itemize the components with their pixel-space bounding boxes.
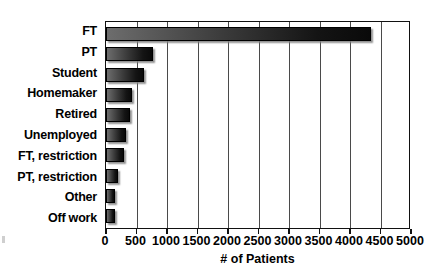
bar: [106, 88, 132, 102]
bar-row: [106, 85, 409, 105]
x-axis-tick-label: 2000: [213, 234, 241, 248]
chart-figure: FTPTStudentHomemakerRetiredUnemployedFT,…: [0, 0, 427, 272]
bar-row: [106, 186, 409, 206]
y-axis-category-labels: FTPTStudentHomemakerRetiredUnemployedFT,…: [0, 21, 101, 229]
x-axis-tick-labels: 0500100015002000250030003500400045005000: [105, 234, 410, 250]
x-axis-tick-label: 3000: [274, 234, 302, 248]
bar-row: [106, 105, 409, 125]
x-axis-tick-label: 1500: [183, 234, 211, 248]
y-axis-label: PT: [0, 42, 101, 63]
y-axis-label: PT, restriction: [0, 167, 101, 188]
bar-series: [106, 22, 409, 228]
bar-row: [106, 145, 409, 165]
y-axis-label: Retired: [0, 104, 101, 125]
bar-row: [106, 64, 409, 84]
bar: [106, 68, 144, 82]
x-axis-tick-label: 500: [125, 234, 146, 248]
bar: [106, 148, 124, 162]
y-axis-label: Homemaker: [0, 83, 101, 104]
x-axis-tick-label: 1000: [152, 234, 180, 248]
y-axis-label: Unemployed: [0, 125, 101, 146]
x-axis-tick-label: 4000: [335, 234, 363, 248]
bar: [106, 108, 130, 122]
y-axis-label: FT: [0, 21, 101, 42]
bar-row: [106, 165, 409, 185]
bar-row: [106, 125, 409, 145]
bar: [106, 209, 115, 223]
bar: [106, 128, 126, 142]
y-axis-label: Off work: [0, 208, 101, 229]
y-axis-label: FT, restriction: [0, 146, 101, 167]
bar: [106, 169, 118, 183]
x-axis-tick-label: 5000: [396, 234, 424, 248]
x-axis-title: # of Patients: [105, 252, 410, 266]
bar-row: [106, 206, 409, 226]
bar-row: [106, 44, 409, 64]
x-axis-tick-label: 2500: [244, 234, 272, 248]
x-axis-tick-label: 0: [102, 234, 109, 248]
bar: [106, 47, 153, 61]
bar-row: [106, 24, 409, 44]
x-axis-tick-label: 4500: [366, 234, 394, 248]
plot-area: [105, 21, 410, 229]
scan-artifact: [2, 236, 5, 243]
bar: [106, 27, 371, 41]
y-axis-label: Other: [0, 187, 101, 208]
bar: [106, 189, 115, 203]
y-axis-label: Student: [0, 63, 101, 84]
x-axis-tick-label: 3500: [305, 234, 333, 248]
